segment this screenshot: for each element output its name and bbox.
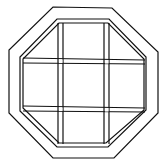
muntin-h2-top	[23, 106, 145, 108]
sash-frame	[23, 23, 144, 143]
inner-frame	[20, 19, 146, 147]
muntin-h1-bottom	[23, 63, 145, 64]
octagon-window-illustration	[0, 0, 164, 163]
window-drawing	[0, 0, 164, 163]
muntin-h2-bottom	[23, 111, 145, 112]
muntin-h1-top	[23, 58, 145, 60]
outer-frame	[9, 7, 158, 158]
